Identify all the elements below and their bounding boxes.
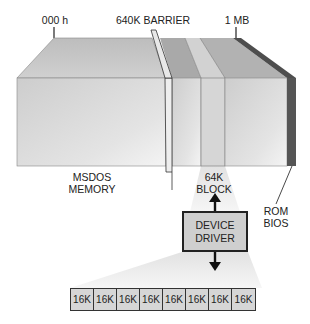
memory-map-diagram xyxy=(0,0,310,324)
label-000h: 000 h xyxy=(38,14,72,26)
rom-line1: ROM xyxy=(260,205,292,217)
page-cell: 16K xyxy=(163,289,186,310)
rom-bios-strip xyxy=(287,78,296,166)
upper-slice-3 xyxy=(225,78,287,166)
msdos-line2: MEMORY xyxy=(62,183,122,195)
page-cell: 16K xyxy=(117,289,140,310)
page-cell: 16K xyxy=(71,289,94,310)
msdos-line1: MSDOS xyxy=(62,171,122,183)
upper-slice-1 xyxy=(172,78,201,166)
msdos-memory-block xyxy=(17,78,166,166)
page-frame-64k-block xyxy=(201,78,225,166)
rom-leader-line xyxy=(276,166,292,204)
page-cell: 16K xyxy=(232,289,255,310)
pages-funnel xyxy=(70,252,262,288)
page-cell: 16K xyxy=(186,289,209,310)
device-driver-box: DEVICE DRIVER xyxy=(182,211,248,252)
block-line1: 64K xyxy=(193,171,235,183)
block-line2: BLOCK xyxy=(193,183,235,195)
driver-line2: DRIVER xyxy=(184,232,246,245)
rom-line2: BIOS xyxy=(260,217,292,229)
page-cell: 16K xyxy=(140,289,163,310)
page-cell: 16K xyxy=(94,289,117,310)
msdos-top-face xyxy=(17,38,166,78)
label-640k-barrier: 640K BARRIER xyxy=(113,14,193,26)
expanded-memory-pages: 16K 16K 16K 16K 16K 16K 16K 16K xyxy=(70,288,256,311)
page-cell: 16K xyxy=(209,289,232,310)
label-1mb: 1 MB xyxy=(222,14,252,26)
label-msdos-memory: MSDOS MEMORY xyxy=(62,171,122,195)
label-rom-bios: ROM BIOS xyxy=(260,205,292,229)
label-64k-block: 64K BLOCK xyxy=(193,171,235,195)
driver-line1: DEVICE xyxy=(184,219,246,232)
barrier-plate xyxy=(165,78,172,172)
